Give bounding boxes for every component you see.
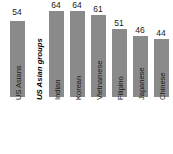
bar-chart: 54 US Asians US Asian groups 64 Indian 6… [0, 0, 173, 154]
category-label-japanese: Japanese [137, 67, 146, 100]
category-label-korean: Korean [74, 76, 83, 100]
bar-value-chinese: 44 [148, 29, 173, 38]
category-label-indian: Indian [53, 80, 62, 100]
plot-area: 54 US Asians US Asian groups 64 Indian 6… [0, 0, 173, 154]
category-label-us-asians: US Asians [14, 65, 23, 100]
category-label-chinese: Chinese [158, 72, 167, 100]
category-label-vietnamese: Vietnamese [95, 61, 104, 100]
bar-value-us-asians: 54 [4, 8, 30, 17]
bar-value-vietnamese: 61 [85, 5, 111, 14]
category-label-filipino: Filipino [116, 76, 125, 100]
group-header-us-asian-groups: US Asian groups [35, 38, 44, 100]
